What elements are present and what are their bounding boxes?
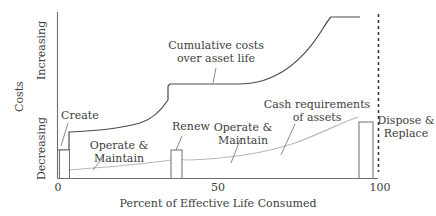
annotation-cash-requirements: Cash requirements of assets bbox=[262, 99, 372, 125]
x-tick-50: 50 bbox=[208, 182, 228, 195]
annotation-cumulative-line1: Cumulative costs bbox=[168, 39, 264, 52]
annotation-cash-line2: of assets bbox=[293, 111, 342, 124]
x-tick-100-text: 100 bbox=[370, 181, 391, 194]
annotation-create-text: Create bbox=[61, 109, 99, 122]
annotation-om1-line1: Operate & bbox=[90, 139, 149, 152]
annotation-renew: Renew bbox=[172, 121, 210, 134]
annotation-cumulative-line2: over asset life bbox=[177, 52, 255, 65]
bar-create bbox=[60, 150, 70, 179]
annotation-dispose-replace: Dispose & Replace bbox=[376, 115, 436, 141]
annotation-cash-line1: Cash requirements bbox=[264, 98, 370, 111]
leader-create bbox=[61, 123, 68, 146]
bar-renew bbox=[171, 150, 182, 179]
y-axis-increasing-label: Increasing bbox=[36, 21, 49, 80]
annotation-dispose-line1: Dispose & bbox=[377, 114, 434, 127]
annotation-cumulative-costs: Cumulative costs over asset life bbox=[161, 40, 271, 66]
y-axis-decreasing-label: Decreasing bbox=[36, 117, 49, 180]
leader-cash-requirements bbox=[281, 124, 295, 155]
x-tick-100: 100 bbox=[368, 182, 392, 195]
leader-cumulative-costs bbox=[213, 68, 216, 83]
cost-lifecycle-chart: Costs Increasing Decreasing 0 50 100 Per… bbox=[0, 0, 436, 216]
leader-renew bbox=[176, 136, 182, 150]
annotation-create: Create bbox=[61, 110, 99, 123]
x-tick-0-text: 0 bbox=[55, 181, 62, 194]
annotation-renew-text: Renew bbox=[172, 120, 210, 133]
y-increasing-text: Increasing bbox=[35, 21, 48, 80]
bar-dispose-replace bbox=[359, 122, 373, 179]
annotation-om2-line2: Maintain bbox=[218, 134, 268, 147]
x-tick-50-text: 50 bbox=[211, 181, 225, 194]
y-decreasing-text: Decreasing bbox=[35, 117, 48, 180]
x-axis-title: Percent of Effective Life Consumed bbox=[88, 198, 348, 211]
annotation-operate-maintain-2: Operate & Maintain bbox=[206, 122, 280, 148]
annotation-dispose-line2: Replace bbox=[384, 127, 429, 140]
x-tick-0: 0 bbox=[48, 182, 68, 195]
x-axis-title-text: Percent of Effective Life Consumed bbox=[120, 197, 317, 210]
annotation-om1-line2: Maintain bbox=[94, 152, 144, 165]
y-axis-title-text: Costs bbox=[13, 81, 26, 112]
annotation-operate-maintain-1: Operate & Maintain bbox=[82, 140, 156, 166]
y-axis-title: Costs bbox=[14, 81, 27, 112]
